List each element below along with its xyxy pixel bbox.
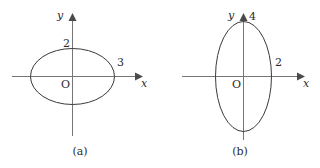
y-intercept-label-a: 2: [63, 38, 70, 49]
x-axis-label-a: x: [141, 78, 147, 89]
ellipse-diagram-a: [0, 0, 160, 168]
figure-panel-b: y x 4 2 O (b): [160, 0, 320, 168]
panel-caption-a: (a): [0, 146, 160, 157]
x-intercept-label-a: 3: [117, 57, 124, 68]
origin-label-b: O: [232, 79, 241, 90]
y-axis-arrowhead-b: [240, 13, 248, 21]
panel-caption-b: (b): [160, 146, 320, 157]
x-intercept-label-b: 2: [275, 57, 282, 68]
y-axis-label-b: y: [228, 10, 234, 21]
y-axis-arrowhead-a: [69, 13, 77, 21]
y-intercept-label-b: 4: [249, 11, 256, 22]
figure-sheet: y x 2 3 O (a) y x 4 2 O (b): [0, 0, 320, 168]
figure-panel-a: y x 2 3 O (a): [0, 0, 160, 168]
x-axis-label-b: x: [303, 78, 309, 89]
origin-label-a: O: [61, 79, 70, 90]
y-axis-label-a: y: [57, 10, 63, 21]
